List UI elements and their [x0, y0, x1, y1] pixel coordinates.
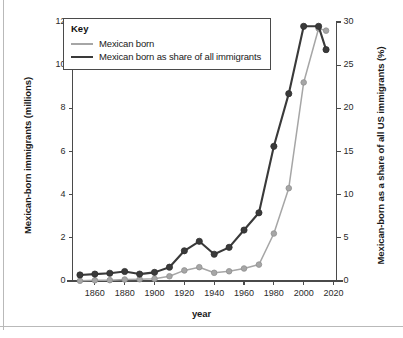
- legend-label-mexican-born: Mexican born: [99, 38, 154, 49]
- data-point-marker: [182, 268, 188, 274]
- data-point-marker: [316, 23, 322, 29]
- data-point-marker: [137, 271, 143, 277]
- y-axis-title-left: Mexican-born immigrants (millions): [22, 46, 33, 266]
- y-tick-label-right: 25: [344, 59, 370, 69]
- y-tick-label-left: 8: [33, 102, 66, 112]
- data-point-marker: [323, 47, 329, 53]
- data-point-marker: [226, 268, 232, 274]
- y-tick-label-left: 12: [33, 16, 66, 26]
- legend-label-share: Mexican born as share of all immigrants: [99, 51, 261, 62]
- y-tick-label-right: 20: [344, 102, 370, 112]
- y-tick-label-left: 6: [33, 146, 66, 156]
- data-point-marker: [286, 185, 292, 191]
- data-point-marker: [286, 91, 292, 97]
- data-point-marker: [241, 227, 247, 233]
- y-tick-label-right: 5: [344, 232, 370, 242]
- data-point-marker: [256, 262, 262, 268]
- data-point-marker: [271, 231, 277, 237]
- legend-box: Key Mexican born Mexican born as share o…: [63, 18, 271, 70]
- y-tick-label-left: 2: [33, 232, 66, 242]
- chart-figure: Mexican-born immigrants (millions) Mexic…: [0, 0, 403, 338]
- y-tick-label-right: 10: [344, 189, 370, 199]
- legend-line-icon-share: [71, 56, 93, 58]
- data-point-marker: [77, 278, 83, 284]
- data-point-marker: [92, 271, 98, 277]
- data-point-marker: [92, 278, 98, 284]
- data-point-marker: [211, 270, 217, 276]
- data-point-marker: [122, 277, 128, 283]
- data-point-marker: [151, 269, 157, 275]
- data-point-marker: [241, 266, 247, 272]
- data-point-marker: [323, 28, 329, 34]
- legend-line-icon-mexican-born: [71, 43, 93, 45]
- data-point-marker: [181, 248, 187, 254]
- data-point-marker: [107, 277, 113, 283]
- y-tick-label-left: 10: [33, 59, 66, 69]
- data-point-marker: [271, 143, 277, 149]
- data-point-marker: [107, 270, 113, 276]
- x-axis-title: year: [0, 308, 403, 319]
- data-point-marker: [166, 264, 172, 270]
- data-point-marker: [301, 23, 307, 29]
- y-axis-title-right: Mexican-born as a share of all US immigr…: [375, 41, 386, 271]
- data-point-marker: [301, 80, 307, 86]
- data-point-marker: [152, 276, 158, 282]
- y-tick-label-right: 0: [344, 275, 370, 285]
- data-point-marker: [226, 244, 232, 250]
- y-tick-label-left: 0: [33, 275, 66, 285]
- legend-title: Key: [71, 23, 263, 34]
- x-tick-label: 2020: [314, 288, 354, 298]
- data-point-marker: [256, 210, 262, 216]
- data-point-marker: [196, 238, 202, 244]
- data-point-marker: [77, 272, 83, 278]
- legend-item-mexican-born: Mexican born: [71, 37, 263, 50]
- data-point-marker: [211, 251, 217, 257]
- data-point-marker: [122, 268, 128, 274]
- data-point-marker: [167, 273, 173, 279]
- y-tick-label-left: 4: [33, 189, 66, 199]
- data-point-marker: [196, 264, 202, 270]
- y-tick-label-right: 30: [344, 16, 370, 26]
- y-tick-label-right: 15: [344, 146, 370, 156]
- legend-item-share: Mexican born as share of all immigrants: [71, 50, 263, 63]
